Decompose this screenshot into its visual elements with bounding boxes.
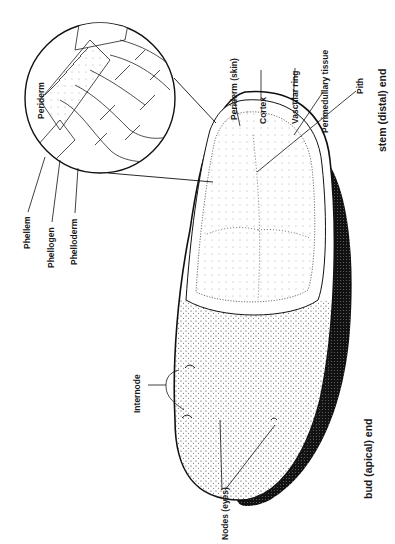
tuber-diagram: [0, 0, 395, 544]
label-perimedullary: Perimedullary tissue: [320, 50, 330, 133]
label-phelloderm: Phelloderm: [69, 219, 79, 265]
label-stem-end: stem (distal) end: [376, 69, 388, 152]
label-internode: Internode: [132, 374, 142, 413]
label-periderm-inset: Periderm: [36, 82, 46, 119]
label-vascular-ring: Vascular ring: [290, 71, 300, 124]
label-periderm-skin: Periderm (skin): [229, 58, 239, 120]
tuber-skin-stippled: [174, 299, 332, 500]
label-cortex: Cortex: [258, 97, 268, 124]
label-nodes: Nodes (eyes): [220, 487, 230, 540]
label-phellem: Phellem: [22, 216, 32, 249]
label-phellogen: Phellogen: [46, 227, 56, 268]
label-bud-end: bud (apical) end: [362, 418, 374, 499]
label-pith: Pith: [355, 78, 365, 94]
